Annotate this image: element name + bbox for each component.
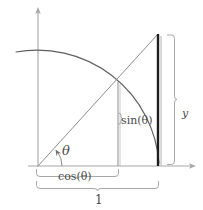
label-y: y (182, 108, 188, 119)
axes-group (28, 7, 196, 169)
y-brace (168, 35, 178, 165)
label-sin-theta: sin(θ) (121, 115, 152, 126)
label-theta: θ (62, 144, 70, 157)
trig-diagram-figure: θ sin(θ) cos(θ) 1 y (0, 0, 203, 210)
label-cos-theta: cos(θ) (58, 171, 92, 182)
diagram-canvas (0, 0, 203, 210)
angle-arc-arrowhead (56, 150, 62, 157)
one-brace (37, 182, 159, 192)
label-one: 1 (95, 194, 103, 206)
hypotenuse-line (38, 34, 158, 166)
